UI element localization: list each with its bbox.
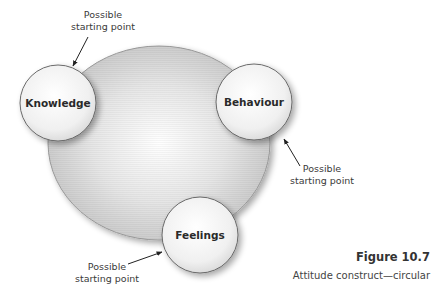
annotation-behaviour-line1: Possible	[303, 163, 341, 174]
node-behaviour: Behaviour	[216, 64, 292, 140]
annotation-feelings-line1: Possible	[88, 261, 126, 272]
annotation-behaviour-line2: starting point	[290, 175, 354, 186]
node-behaviour-label: Behaviour	[224, 96, 285, 108]
figure-caption: Attitude construct—circular	[293, 270, 430, 281]
annotation-knowledge-line1: Possible	[84, 9, 122, 20]
annotation-feelings-line2: starting point	[75, 273, 139, 284]
arrow-icon	[128, 252, 162, 264]
node-knowledge-label: Knowledge	[25, 97, 90, 109]
annotation-knowledge-line2: starting point	[71, 21, 135, 32]
node-feelings: Feelings	[162, 197, 238, 273]
annotation-behaviour: Possible starting point	[284, 139, 354, 186]
annotation-feelings: Possible starting point	[75, 252, 162, 284]
node-knowledge: Knowledge	[20, 65, 96, 141]
figure-number: Figure 10.7	[356, 250, 430, 264]
arrow-icon	[73, 37, 88, 66]
node-feelings-label: Feelings	[175, 229, 224, 241]
arrow-icon	[284, 139, 300, 166]
